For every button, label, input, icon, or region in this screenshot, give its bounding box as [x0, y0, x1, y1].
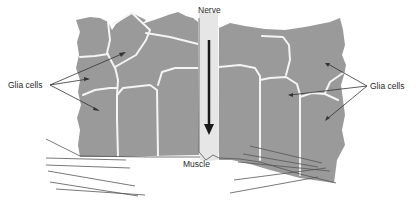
- muscle-fiber: [46, 158, 126, 160]
- right-tissue: [219, 18, 346, 183]
- muscle-fiber: [230, 177, 318, 193]
- left-tissue: [76, 12, 199, 157]
- muscle-fiber: [46, 165, 130, 168]
- glia-nerve-muscle-diagram: Nerve Glia cells Glia cells Muscle: [0, 0, 416, 201]
- glia-cells-right-label: Glia cells: [370, 81, 404, 91]
- glia-cells-left-label: Glia cells: [8, 80, 42, 90]
- nerve-label: Nerve: [198, 5, 221, 15]
- muscle-label: Muscle: [183, 159, 210, 169]
- left-cell-wall: [117, 120, 118, 156]
